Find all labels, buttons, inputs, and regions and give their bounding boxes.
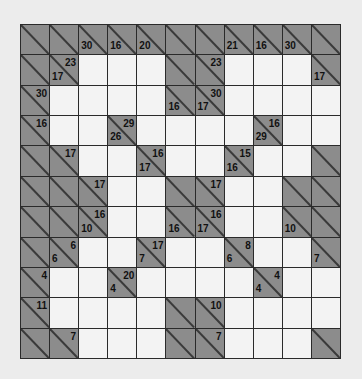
block-cell [21, 25, 49, 54]
clue-cell: 7 [312, 238, 340, 267]
entry-cell[interactable] [196, 238, 224, 267]
entry-cell[interactable] [312, 268, 340, 297]
diagonal-divider-icon [50, 177, 78, 206]
down-clue: 17 [139, 163, 150, 173]
entry-cell[interactable] [79, 329, 107, 358]
entry-cell[interactable] [79, 86, 107, 115]
diagonal-divider-icon [312, 146, 340, 175]
entry-cell[interactable] [312, 298, 340, 327]
entry-cell[interactable] [283, 329, 311, 358]
entry-cell[interactable] [166, 238, 194, 267]
entry-cell[interactable] [137, 55, 165, 84]
diagonal-divider-icon [50, 25, 78, 54]
entry-cell[interactable] [254, 298, 282, 327]
entry-cell[interactable] [108, 238, 136, 267]
entry-cell[interactable] [50, 298, 78, 327]
entry-cell[interactable] [196, 268, 224, 297]
entry-cell[interactable] [79, 55, 107, 84]
entry-cell[interactable] [50, 268, 78, 297]
entry-cell[interactable] [166, 116, 194, 145]
entry-cell[interactable] [254, 86, 282, 115]
block-cell [312, 25, 340, 54]
entry-cell[interactable] [225, 329, 253, 358]
entry-cell[interactable] [283, 86, 311, 115]
down-clue: 16 [168, 224, 179, 234]
entry-cell[interactable] [50, 86, 78, 115]
entry-cell[interactable] [254, 146, 282, 175]
entry-cell[interactable] [283, 298, 311, 327]
clue-cell: 17 [50, 146, 78, 175]
entry-cell[interactable] [283, 146, 311, 175]
entry-cell[interactable] [137, 86, 165, 115]
clue-cell: 30 [283, 25, 311, 54]
entry-cell[interactable] [108, 86, 136, 115]
block-cell [50, 177, 78, 206]
diagonal-divider-icon [166, 25, 194, 54]
block-cell [21, 207, 49, 236]
entry-cell[interactable] [283, 268, 311, 297]
entry-cell[interactable] [312, 86, 340, 115]
down-clue: 17 [314, 72, 325, 82]
block-cell [21, 146, 49, 175]
entry-cell[interactable] [225, 298, 253, 327]
entry-cell[interactable] [196, 146, 224, 175]
entry-cell[interactable] [137, 268, 165, 297]
diagonal-divider-icon [283, 177, 311, 206]
entry-cell[interactable] [108, 177, 136, 206]
entry-cell[interactable] [137, 298, 165, 327]
block-cell [166, 177, 194, 206]
entry-cell[interactable] [137, 207, 165, 236]
down-clue: 29 [256, 132, 267, 142]
diagonal-divider-icon [166, 55, 194, 84]
entry-cell[interactable] [108, 298, 136, 327]
entry-cell[interactable] [79, 238, 107, 267]
entry-cell[interactable] [137, 329, 165, 358]
entry-cell[interactable] [312, 116, 340, 145]
entry-cell[interactable] [283, 116, 311, 145]
down-clue: 20 [139, 41, 150, 51]
entry-cell[interactable] [254, 55, 282, 84]
entry-cell[interactable] [50, 116, 78, 145]
entry-cell[interactable] [254, 238, 282, 267]
entry-cell[interactable] [108, 55, 136, 84]
clue-cell: 16 [254, 25, 282, 54]
entry-cell[interactable] [283, 238, 311, 267]
clue-cell: 86 [225, 238, 253, 267]
entry-cell[interactable] [225, 116, 253, 145]
entry-cell[interactable] [79, 298, 107, 327]
across-clue: 17 [211, 180, 222, 190]
entry-cell[interactable] [166, 268, 194, 297]
entry-cell[interactable] [225, 207, 253, 236]
entry-cell[interactable] [254, 177, 282, 206]
clue-cell: 10 [196, 298, 224, 327]
block-cell [166, 298, 194, 327]
clue-cell: 3017 [196, 86, 224, 115]
block-cell [166, 55, 194, 84]
down-clue: 16 [168, 102, 179, 112]
entry-cell[interactable] [166, 146, 194, 175]
clue-cell: 30 [21, 86, 49, 115]
entry-cell[interactable] [79, 116, 107, 145]
clue-cell: 2317 [50, 55, 78, 84]
entry-cell[interactable] [225, 55, 253, 84]
across-clue: 30 [211, 89, 222, 99]
across-clue: 16 [94, 210, 105, 220]
entry-cell[interactable] [225, 177, 253, 206]
entry-cell[interactable] [108, 146, 136, 175]
entry-cell[interactable] [137, 177, 165, 206]
entry-cell[interactable] [225, 268, 253, 297]
clue-cell: 10 [283, 207, 311, 236]
entry-cell[interactable] [196, 116, 224, 145]
entry-cell[interactable] [108, 207, 136, 236]
entry-cell[interactable] [225, 86, 253, 115]
clue-cell: 177 [137, 238, 165, 267]
entry-cell[interactable] [137, 116, 165, 145]
entry-cell[interactable] [108, 329, 136, 358]
entry-cell[interactable] [79, 146, 107, 175]
down-clue: 30 [81, 41, 92, 51]
entry-cell[interactable] [79, 268, 107, 297]
entry-cell[interactable] [254, 207, 282, 236]
entry-cell[interactable] [254, 329, 282, 358]
entry-cell[interactable] [283, 55, 311, 84]
down-clue: 16 [256, 41, 267, 51]
